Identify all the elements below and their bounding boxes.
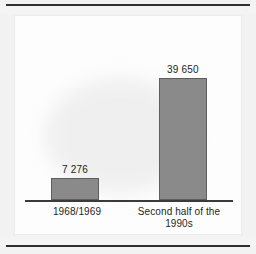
page-gutter-top xyxy=(0,6,256,14)
chart-panel: 7 276 39 650 1968/1969 Second half of th… xyxy=(14,15,242,235)
axis-baseline xyxy=(25,200,233,202)
bar-group: 39 650 xyxy=(153,64,213,200)
bar-value-label: 7 276 xyxy=(62,164,88,176)
category-label: 1968/1969 xyxy=(25,206,129,218)
bar-group: 7 276 xyxy=(45,164,105,200)
page-gutter-bottom xyxy=(0,237,256,245)
scan-rule-bottom xyxy=(6,245,250,247)
bar-rect[interactable] xyxy=(159,78,207,200)
category-label: Second half of the 1990s xyxy=(125,206,233,230)
scan-rule-top xyxy=(6,4,250,6)
category-label-line: 1990s xyxy=(125,218,233,230)
plot-area: 7 276 39 650 xyxy=(25,24,233,202)
figure-root: 7 276 39 650 1968/1969 Second half of th… xyxy=(0,0,256,254)
category-label-line: Second half of the xyxy=(125,206,233,218)
category-axis: 1968/1969 Second half of the 1990s xyxy=(25,206,233,234)
category-label-line: 1968/1969 xyxy=(25,206,129,218)
bar-value-label: 39 650 xyxy=(167,64,199,76)
bar-rect[interactable] xyxy=(51,178,99,200)
